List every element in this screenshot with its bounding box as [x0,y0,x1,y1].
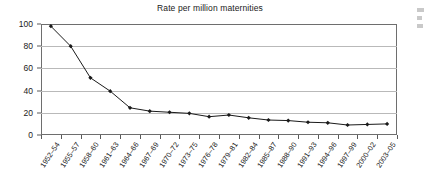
x-tick-mark [239,135,240,139]
y-tick-label: 40 [24,86,33,95]
x-tick-mark [120,135,121,139]
y-tick-label: 80 [24,42,33,51]
x-tick-label: 1979–81 [217,141,240,169]
x-tick-mark [278,135,279,139]
x-tick-mark [41,135,42,139]
x-tick-mark [140,135,141,139]
chart-title: Rate per million maternities [40,3,380,14]
y-tick-label: 20 [24,109,33,118]
x-tick-mark [61,135,62,139]
y-tick-label: 100 [19,20,33,29]
x-tick-mark [81,135,82,139]
y-axis: 020406080100 [0,24,41,135]
x-tick-mark [179,135,180,139]
data-point-marker [326,121,330,125]
y-tick-label: 60 [24,64,33,73]
data-point-marker [385,122,389,126]
data-point-marker [266,118,270,122]
x-tick-mark [357,135,358,139]
x-tick-mark [199,135,200,139]
data-point-marker [187,111,191,115]
x-tick-mark [100,135,101,139]
data-series-line [41,24,397,135]
series-polyline [51,26,387,125]
x-tick-label: 1964–66 [118,141,141,169]
data-point-marker [167,110,171,114]
data-point-marker [247,116,251,120]
x-axis: 1952–541955–571958–601961–631964–661967–… [41,135,397,186]
data-point-marker [306,120,310,124]
x-tick-mark [219,135,220,139]
x-tick-label: 2003–05 [375,141,398,169]
x-tick-label: 1952–54 [39,141,62,169]
x-tick-mark [160,135,161,139]
x-tick-label: 1991–93 [296,141,319,169]
data-point-marker [365,122,369,126]
data-point-marker [345,123,349,127]
y-tick-label: 0 [28,131,33,140]
x-tick-mark [338,135,339,139]
data-point-marker [148,109,152,113]
x-tick-mark [397,135,398,139]
plot-area [41,24,397,135]
x-tick-mark [318,135,319,139]
cropped-margin-text [414,6,428,40]
x-tick-label: 1994–96 [316,141,339,169]
x-tick-mark [377,135,378,139]
x-tick-mark [298,135,299,139]
data-point-marker [286,118,290,122]
chart-figure: Rate per million maternities 02040608010… [0,0,428,186]
data-point-marker [227,113,231,117]
data-point-marker [207,115,211,119]
x-tick-label: 1967–69 [138,141,161,169]
x-tick-mark [259,135,260,139]
